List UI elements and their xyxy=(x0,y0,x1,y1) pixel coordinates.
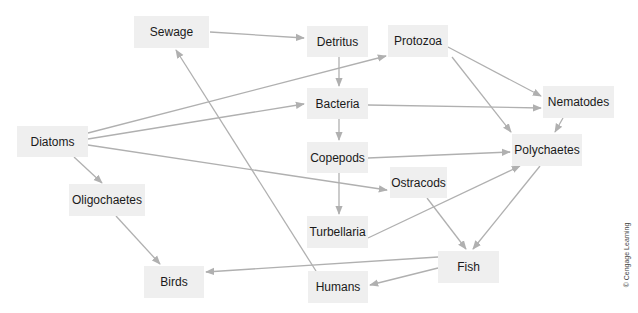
edge-sewage-to-detritus xyxy=(210,32,304,38)
node-bacteria: Bacteria xyxy=(307,88,368,119)
food-web-diagram: SewageDetritusProtozoaBacteriaNematodesD… xyxy=(0,0,638,313)
node-label: Ostracods xyxy=(391,176,446,190)
node-humans: Humans xyxy=(308,271,368,303)
node-fish: Fish xyxy=(438,251,499,283)
edge-bacteria-to-nematodes xyxy=(368,105,541,108)
node-label: Protozoa xyxy=(394,34,442,48)
node-label: Birds xyxy=(160,275,187,289)
node-sewage: Sewage xyxy=(134,16,209,48)
edge-humans-to-sewage xyxy=(176,50,316,271)
node-oligochaetes: Oligochaetes xyxy=(69,184,145,216)
node-label: Nematodes xyxy=(548,95,609,109)
edge-diatoms-to-bacteria xyxy=(88,104,304,139)
edge-fish-to-birds xyxy=(206,257,438,272)
node-protozoa: Protozoa xyxy=(388,25,448,57)
node-copepods: Copepods xyxy=(307,142,368,173)
edge-nematodes-to-polychaetes xyxy=(555,118,563,132)
edge-fish-to-humans xyxy=(370,268,438,285)
edge-ostracods-to-fish xyxy=(427,198,466,249)
node-label: Turbellaria xyxy=(309,225,365,239)
node-label: Diatoms xyxy=(30,135,74,149)
node-label: Sewage xyxy=(150,25,193,39)
edge-copepods-to-polychaetes xyxy=(368,152,510,158)
node-label: Oligochaetes xyxy=(72,193,142,207)
node-birds: Birds xyxy=(144,266,204,298)
node-ostracods: Ostracods xyxy=(390,167,447,198)
copyright-credit: © Cengage Learning xyxy=(623,223,630,288)
node-diatoms: Diatoms xyxy=(17,126,88,157)
node-label: Copepods xyxy=(310,151,365,165)
node-label: Polychaetes xyxy=(514,143,579,157)
edge-protozoa-to-nematodes xyxy=(448,47,541,96)
edge-oligochaetes-to-birds xyxy=(116,216,160,264)
node-label: Detritus xyxy=(317,35,358,49)
node-label: Humans xyxy=(316,280,361,294)
node-label: Bacteria xyxy=(315,97,359,111)
node-nematodes: Nematodes xyxy=(543,86,614,118)
node-polychaetes: Polychaetes xyxy=(512,134,582,166)
node-turbellaria: Turbellaria xyxy=(307,216,368,248)
edge-polychaetes-to-fish xyxy=(473,166,540,249)
node-detritus: Detritus xyxy=(307,26,368,57)
edge-protozoa-to-polychaetes xyxy=(452,57,511,132)
edge-diatoms-to-oligochaetes xyxy=(74,157,102,183)
node-label: Fish xyxy=(457,260,480,274)
